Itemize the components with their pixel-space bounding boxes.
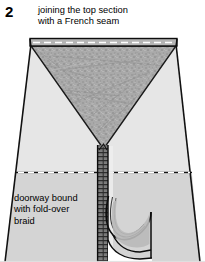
caption-bottom-line-1: doorway bound	[14, 193, 96, 204]
caption-bottom: doorway bound with fold-over braid	[14, 193, 96, 227]
caption-bottom-line-3: braid	[14, 216, 96, 227]
caption-top-line-2: with a French seam	[38, 16, 188, 27]
step-number: 2	[5, 4, 13, 20]
illustration-page: 2 joining the top section with a French …	[0, 0, 205, 262]
top-band	[30, 39, 177, 47]
caption-bottom-line-2: with fold-over	[14, 204, 96, 215]
caption-top-line-1: joining the top section	[38, 5, 188, 16]
caption-top: joining the top section with a French se…	[38, 5, 188, 27]
